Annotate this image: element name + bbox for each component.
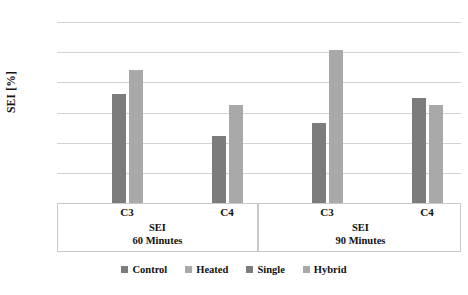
- bar-heated-c3-60: [129, 70, 143, 203]
- legend-item-hybrid[interactable]: Hybrid: [303, 264, 347, 275]
- bar-control-c3-60: [112, 94, 126, 203]
- legend-swatch-icon-control: [121, 266, 128, 273]
- legend-label: Control: [132, 264, 167, 275]
- legend-label: Hybrid: [314, 264, 347, 275]
- y-axis-title: SEI [%]: [5, 56, 17, 128]
- plot-area: [57, 22, 461, 203]
- category-label-c4-60: C4: [197, 206, 257, 218]
- chart-legend: ControlHeatedSingleHybrid: [0, 264, 468, 275]
- group-label-line2: 90 Minutes: [259, 235, 462, 248]
- group-label-90-minutes: SEI90 Minutes: [259, 222, 462, 247]
- legend-swatch-icon-single: [246, 266, 253, 273]
- bar-single-c3-90: [312, 123, 326, 203]
- group-label-line2: 60 Minutes: [57, 235, 258, 248]
- gridline-25: [57, 52, 461, 53]
- category-label-c3-90: C3: [297, 206, 357, 218]
- bar-single-c4-90: [412, 98, 426, 203]
- legend-item-single[interactable]: Single: [246, 264, 284, 275]
- group-label-line1: SEI: [149, 222, 166, 233]
- legend-item-heated[interactable]: Heated: [185, 264, 228, 275]
- gridline-20: [57, 82, 461, 83]
- category-label-c3-60: C3: [97, 206, 157, 218]
- group-label-60-minutes: SEI60 Minutes: [57, 222, 258, 247]
- legend-label: Heated: [196, 264, 228, 275]
- bar-chart: SEI [%] 302520151050 C3C4C3C4 SEI60 Minu…: [0, 0, 468, 295]
- legend-swatch-icon-heated: [185, 266, 192, 273]
- category-label-c4-90: C4: [397, 206, 457, 218]
- bar-hybrid-c3-90: [329, 50, 343, 203]
- bar-control-c4-60: [212, 136, 226, 203]
- gridline-30: [57, 22, 461, 23]
- group-label-line1: SEI: [352, 222, 369, 233]
- bar-heated-c4-60: [229, 105, 243, 203]
- bar-hybrid-c4-90: [429, 105, 443, 203]
- legend-item-control[interactable]: Control: [121, 264, 167, 275]
- legend-label: Single: [257, 264, 284, 275]
- legend-swatch-icon-hybrid: [303, 266, 310, 273]
